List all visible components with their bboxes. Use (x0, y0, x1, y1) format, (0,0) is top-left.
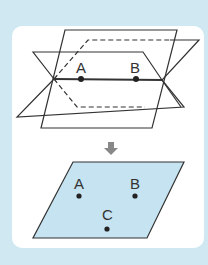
point-b-top (133, 76, 139, 82)
point-a-top (78, 76, 84, 82)
point-c (104, 226, 109, 231)
plane-dashed-back (54, 40, 170, 79)
point-b (132, 193, 137, 198)
three-planes-figure (17, 30, 199, 128)
planes-diagram: A B A B C (0, 0, 208, 265)
label-b-top: B (130, 59, 140, 76)
label-b: B (130, 175, 140, 192)
intersection-line (54, 79, 162, 80)
arrow-down-icon (104, 142, 118, 155)
plane-dashed-front (162, 40, 199, 107)
label-c: C (102, 206, 113, 223)
point-a (76, 193, 81, 198)
plane-dashed-back-lower (54, 79, 145, 107)
plane-abc (33, 162, 184, 238)
label-a-top: A (76, 59, 86, 76)
label-a: A (74, 175, 84, 192)
